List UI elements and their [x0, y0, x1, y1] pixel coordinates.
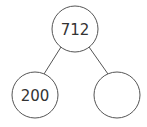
node-part-left-label: 200: [21, 87, 50, 105]
node-whole-label: 712: [61, 21, 90, 39]
number-bond-diagram: 712 200: [0, 0, 147, 127]
connector-left: [44, 47, 61, 74]
connector-right: [89, 47, 108, 74]
node-part-left: 200: [12, 72, 58, 118]
node-part-right: [94, 72, 140, 118]
node-whole: 712: [52, 6, 98, 52]
